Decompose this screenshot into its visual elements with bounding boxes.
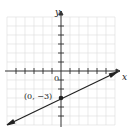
y-axis-label: y [54, 7, 61, 17]
coordinate-graph: y x 0 (0, −3) [0, 0, 138, 133]
arrow-right-icon [110, 72, 118, 77]
point-label: (0, −3) [24, 92, 52, 101]
y-intercept-point [59, 96, 64, 101]
origin-label: 0 [54, 74, 59, 83]
arrow-left-icon [7, 120, 15, 125]
x-axis [5, 68, 120, 74]
x-axis-label: x [122, 72, 127, 82]
y-axis [58, 11, 64, 127]
